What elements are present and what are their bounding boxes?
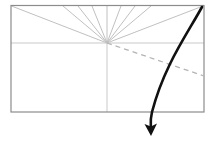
fan-ray-group	[12, 6, 204, 43]
fan-ray-1	[63, 6, 107, 43]
diagram-canvas	[0, 0, 214, 142]
bold-curved-arrow	[145, 7, 203, 136]
fan-ray-3	[92, 6, 107, 43]
diagram-root	[0, 0, 214, 142]
dashed-trajectory-line	[107, 43, 204, 76]
